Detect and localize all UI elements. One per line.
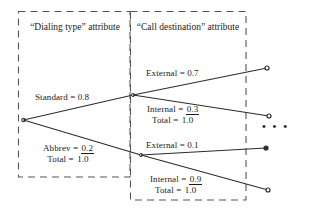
dialing-type-heading-line3: attribute [88, 22, 120, 32]
call-destination-heading-line3: attribute [208, 22, 240, 32]
label-internal-bottom-row2: Total = 1.0 [150, 185, 202, 196]
call-destination-heading: “Call destination” attribute [132, 21, 244, 33]
label-internal-bottom-row1: Internal = 0.9 [150, 174, 202, 185]
continuation-ellipsis: • • • [262, 121, 289, 132]
label-standard-text: Standard = 0.8 [35, 92, 89, 102]
label-internal-bottom-value: 0.9 [189, 174, 203, 185]
label-external-top: External = 0.7 [146, 68, 199, 79]
dialing-type-heading-line2: type” [65, 22, 86, 32]
continuation-ellipsis-text: • • • [262, 120, 289, 132]
label-internal-top-total-equals: = [173, 115, 178, 125]
label-internal-bottom-total-value: 1.0 [184, 185, 198, 196]
label-internal-top-value: 0.3 [186, 104, 200, 115]
label-abbrev-row2: Total = 1.0 [43, 154, 94, 165]
dialing-type-heading: “Dialing type” attribute [21, 21, 129, 33]
label-standard: Standard = 0.8 [35, 92, 89, 103]
dialing-type-heading-line1: “Dialing [30, 22, 63, 32]
call-destination-heading-line1: “Call [137, 22, 157, 32]
label-abbrev-value: 0.2 [81, 143, 95, 154]
leaf-node-external-bottom [264, 146, 268, 150]
leaf-node-internal-bottom [266, 188, 270, 192]
label-abbrev-total-name: Total [47, 154, 66, 164]
label-internal-top-total-name: Total [152, 115, 171, 125]
label-internal-top-row2: Total = 1.0 [147, 115, 199, 126]
label-abbrev-total-equals: = [69, 154, 74, 164]
label-abbrev: Abbrev = 0.2 Total = 1.0 [43, 143, 94, 165]
label-abbrev-total-value: 1.0 [76, 154, 90, 165]
label-internal-top-name: Internal [147, 104, 176, 114]
label-abbrev-name: Abbrev [43, 143, 71, 153]
label-internal-top-total-value: 1.0 [181, 115, 195, 126]
label-abbrev-row1: Abbrev = 0.2 [43, 143, 94, 154]
leaf-node-external-top [265, 66, 269, 70]
label-internal-top-row1: Internal = 0.3 [147, 104, 199, 115]
label-internal-bottom-total-name: Total [155, 185, 174, 195]
leaf-node-internal-top [267, 114, 271, 118]
call-destination-heading-line2: destination” [159, 22, 205, 32]
label-internal-bottom-total-equals: = [176, 185, 181, 195]
label-external-top-text: External = 0.7 [146, 68, 199, 78]
label-internal-bottom-equals: = [181, 174, 186, 184]
label-abbrev-equals: = [73, 143, 78, 153]
label-external-bottom: External = 0.1 [146, 140, 199, 151]
label-external-bottom-text: External = 0.1 [146, 140, 199, 150]
label-internal-top: Internal = 0.3 Total = 1.0 [147, 104, 199, 126]
label-internal-bottom: Internal = 0.9 Total = 1.0 [150, 174, 202, 196]
label-internal-top-equals: = [178, 104, 183, 114]
label-internal-bottom-name: Internal [150, 174, 179, 184]
